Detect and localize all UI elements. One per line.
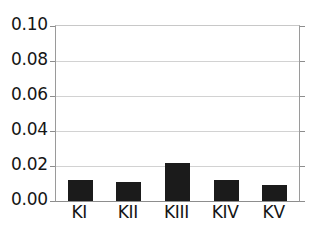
axis-tick: [50, 26, 55, 27]
axis-tick: [300, 96, 305, 97]
x-tick-label-ki: KI: [55, 203, 104, 222]
axis-tick: [50, 96, 55, 97]
bar-ki: [68, 180, 93, 201]
y-tick-label: 0.10: [11, 16, 48, 33]
axis-tick: [50, 131, 55, 132]
plot-area: [55, 25, 300, 202]
y-tick-label: 0.04: [11, 121, 48, 138]
bar-kiv: [214, 180, 239, 201]
y-tick-label: 0.00: [11, 191, 48, 208]
axis-tick: [300, 201, 305, 202]
bar-kiii: [165, 163, 190, 202]
y-tick-label: 0.08: [11, 51, 48, 68]
bar-chart: 0.10 0.08 0.06 0.04 0.02 0.00 KI KII KII…: [0, 0, 317, 237]
x-tick-label-kii: KII: [104, 203, 153, 222]
y-axis-tick-labels: 0.10 0.08 0.06 0.04 0.02 0.00: [0, 0, 52, 237]
axis-tick: [50, 166, 55, 167]
x-tick-label-kiii: KIII: [152, 203, 201, 222]
x-tick-label-kiv: KIV: [201, 203, 250, 222]
bar-kii: [116, 182, 141, 201]
axis-tick: [300, 131, 305, 132]
x-axis-tick-labels: KI KII KIII KIV KV: [55, 203, 300, 229]
y-tick-label: 0.06: [11, 86, 48, 103]
x-tick-label-kv: KV: [249, 203, 298, 222]
axis-tick: [300, 61, 305, 62]
axis-tick: [300, 26, 305, 27]
bars-group: [56, 26, 299, 201]
axis-tick: [300, 166, 305, 167]
axis-tick: [50, 201, 55, 202]
bar-kv: [262, 185, 287, 201]
y-tick-label: 0.02: [11, 156, 48, 173]
axis-tick: [50, 61, 55, 62]
